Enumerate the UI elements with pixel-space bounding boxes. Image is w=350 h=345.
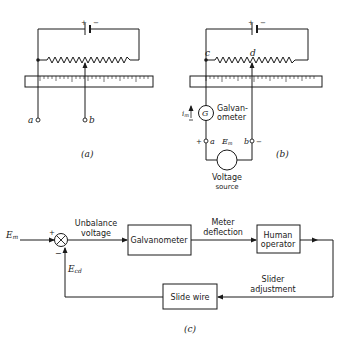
slider-label-2: adjustment bbox=[250, 285, 296, 294]
unbalance-label-2: voltage bbox=[81, 229, 111, 238]
current-label: im bbox=[182, 110, 189, 118]
node-d-label: d bbox=[250, 48, 256, 58]
meter-label-2: deflection bbox=[203, 228, 243, 237]
top-wire-right bbox=[91, 29, 139, 60]
junction-dot-c bbox=[204, 58, 208, 62]
terminal-a-b-icon[interactable] bbox=[204, 139, 208, 143]
terminal-b-sign: − bbox=[256, 138, 262, 146]
ruler-ticks-b bbox=[206, 76, 314, 82]
terminal-b-label: b bbox=[89, 115, 95, 125]
meter-label-1: Meter bbox=[211, 218, 235, 227]
minus-sign: − bbox=[55, 249, 62, 258]
galvanometer-block-label: Galvanometer bbox=[131, 236, 189, 245]
terminal-a-b-label: a bbox=[210, 137, 215, 146]
battery-plus-a: + bbox=[81, 19, 87, 27]
source-label-1: Voltage bbox=[212, 173, 242, 182]
terminal-a-icon[interactable] bbox=[36, 118, 40, 122]
galvanometer-label-2: ometer bbox=[217, 113, 247, 122]
human-label-2: operator bbox=[261, 240, 296, 249]
slide-wire-label: Slide wire bbox=[171, 293, 210, 302]
galvanometer-label-1: Galvan- bbox=[217, 104, 248, 113]
caption-b: (b) bbox=[276, 149, 289, 159]
ruler-ticks-a bbox=[40, 76, 148, 82]
human-label-1: Human bbox=[264, 231, 293, 240]
input-em-label: Em bbox=[5, 230, 19, 240]
emf-label: Em bbox=[221, 137, 233, 146]
source-label-2: source bbox=[215, 183, 238, 191]
terminal-a-sign: + bbox=[196, 138, 202, 146]
top-wire-left bbox=[38, 29, 85, 60]
top-wire-left-b bbox=[206, 29, 252, 60]
plus-sign: + bbox=[49, 229, 55, 237]
feedback-ecd-label: Ecd bbox=[67, 264, 82, 274]
unbalance-label-1: Unbalance bbox=[75, 219, 118, 228]
figure-b-circuit bbox=[189, 23, 322, 170]
slide-wire-resistor bbox=[38, 57, 135, 63]
terminal-b-b-label: b bbox=[244, 137, 249, 146]
terminal-a-label: a bbox=[28, 115, 33, 125]
figure-a-circuit bbox=[25, 23, 153, 118]
node-c-label: c bbox=[205, 48, 210, 58]
galvanometer-symbol: G bbox=[202, 109, 209, 118]
diagram-svg: + − a b (a) + − c d G bbox=[0, 0, 350, 345]
potentiometer-figure: + − a b (a) + − c d G bbox=[0, 0, 350, 345]
battery-plus-b: + bbox=[248, 19, 254, 27]
caption-a: (a) bbox=[81, 149, 94, 159]
terminal-b-icon[interactable] bbox=[83, 118, 87, 122]
junction-dot-a bbox=[36, 58, 40, 62]
slider-label-1: Slider bbox=[262, 275, 286, 284]
caption-c: (c) bbox=[184, 324, 197, 334]
voltage-source-icon bbox=[217, 150, 237, 170]
battery-minus-b: − bbox=[260, 19, 266, 27]
top-wire-right-b bbox=[258, 29, 308, 60]
terminal-b-b-icon[interactable] bbox=[250, 139, 254, 143]
battery-minus-a: − bbox=[93, 19, 99, 27]
